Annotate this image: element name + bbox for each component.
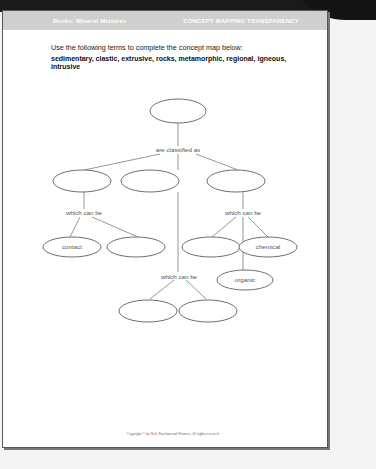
- node-label-contact: contact: [62, 243, 82, 250]
- node-label-organic: organic: [235, 276, 255, 283]
- concept-node-l3-c: [182, 237, 240, 257]
- concept-node-l3-b: [107, 237, 165, 257]
- concept-node-l2-c: [207, 170, 265, 192]
- concept-node-root: [150, 99, 206, 123]
- concept-node-l2-a: [53, 170, 111, 192]
- node-label-chemical: chemical: [256, 243, 280, 250]
- copyright-footer: Copyright © by Holt, Rinehart and Winsto…: [0, 432, 346, 436]
- link-label-left: which can be: [65, 209, 103, 216]
- concept-node-l4-a: [119, 300, 177, 322]
- link-label-middle: which can be: [160, 273, 198, 280]
- concept-node-l4-b: [179, 300, 237, 322]
- concept-node-l2-b: [121, 170, 179, 192]
- link-label-are-classified-as: are classified as: [156, 146, 200, 153]
- link-label-right: which can be: [224, 209, 262, 216]
